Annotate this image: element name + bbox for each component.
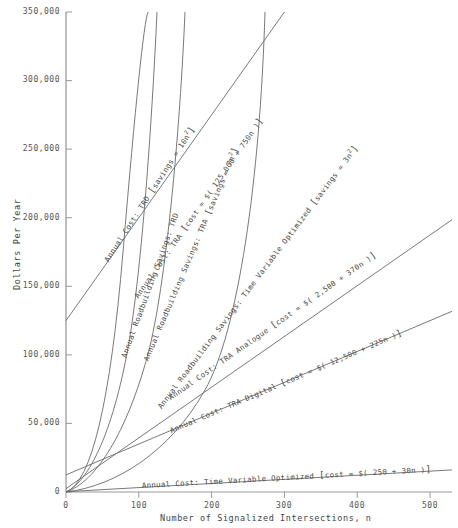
chart-figure: 350,000 300,000 250,000 200,000 150,000 … <box>0 0 458 528</box>
y-tick-label: 350,000 <box>0 7 60 16</box>
y-tick-label: 300,000 <box>0 75 60 84</box>
x-tick-label: 0 <box>46 501 86 510</box>
x-tick-label: 400 <box>337 501 377 510</box>
y-axis-ticks <box>66 12 72 492</box>
y-tick-label: 0 <box>0 487 60 496</box>
x-tick-label: 100 <box>119 501 159 510</box>
y-tick-label: 100,000 <box>0 350 60 359</box>
y-tick-label: 200,000 <box>0 213 60 222</box>
x-tick-label: 200 <box>192 501 232 510</box>
x-axis-title: Number of Signalized Intersections, n <box>160 513 372 523</box>
chart-canvas <box>0 0 458 528</box>
x-tick-label: 300 <box>264 501 304 510</box>
x-tick-label: 500 <box>410 501 450 510</box>
y-axis-title: Dollars Per Year <box>12 199 22 290</box>
y-tick-label: 150,000 <box>0 281 60 290</box>
y-tick-label: 250,000 <box>0 144 60 153</box>
y-tick-label: 50,000 <box>0 418 60 427</box>
x-axis-ticks <box>66 492 430 498</box>
bracket-close: ] <box>425 464 431 474</box>
